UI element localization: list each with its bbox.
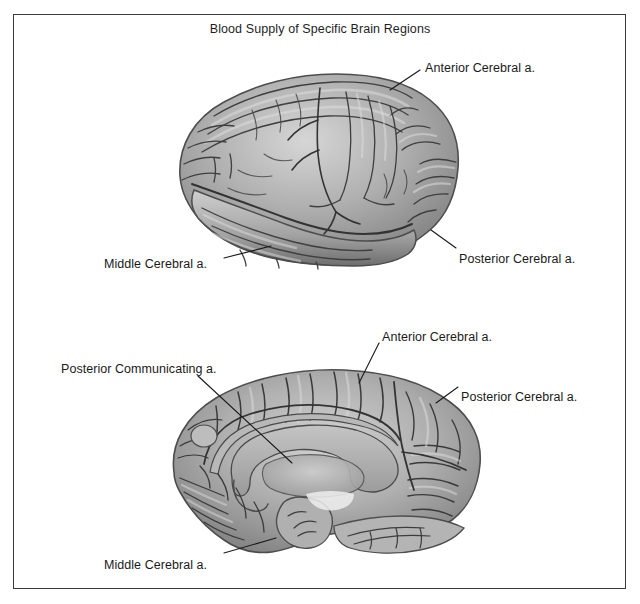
- leader-lateral-middle-cerebral: [224, 246, 271, 258]
- label-lateral-anterior-cerebral: Anterior Cerebral a.: [425, 61, 535, 75]
- label-medial-middle-cerebral: Middle Cerebral a.: [104, 558, 207, 572]
- leader-lateral-posterior-cerebral: [431, 230, 456, 248]
- label-lateral-posterior-cerebral: Posterior Cerebral a.: [459, 252, 575, 266]
- leader-medial-posterior-cerebral: [436, 387, 458, 403]
- leader-lines-layer: [0, 0, 640, 604]
- leader-medial-middle-cerebral: [224, 538, 276, 553]
- label-medial-posterior-communicating: Posterior Communicating a.: [61, 362, 217, 376]
- leader-lateral-anterior-cerebral: [390, 70, 420, 90]
- leader-medial-posterior-communicating: [198, 376, 292, 463]
- label-lateral-middle-cerebral: Middle Cerebral a.: [104, 257, 207, 271]
- label-medial-posterior-cerebral: Posterior Cerebral a.: [461, 390, 577, 404]
- leader-medial-anterior-cerebral: [359, 343, 379, 383]
- figure-root: Blood Supply of Specific Brain Regions: [0, 0, 640, 604]
- label-medial-anterior-cerebral: Anterior Cerebral a.: [382, 330, 492, 344]
